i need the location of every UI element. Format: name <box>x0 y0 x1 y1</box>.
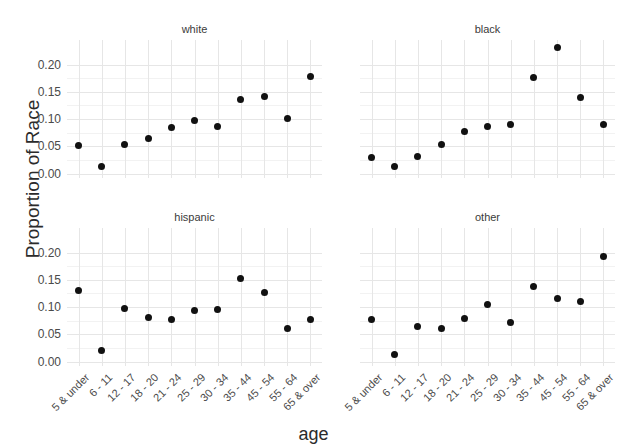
gridline-vertical <box>125 228 126 366</box>
data-point <box>507 121 514 128</box>
gridline-vertical <box>464 228 465 366</box>
panel-title-other: other <box>360 211 615 223</box>
gridline-vertical <box>102 228 103 366</box>
y-tick-label: 0.15 <box>38 273 61 287</box>
gridline-vertical <box>125 40 126 178</box>
gridline-vertical <box>441 40 442 178</box>
gridline-vertical <box>171 228 172 366</box>
panel-black: black <box>360 40 615 178</box>
data-point <box>484 301 491 308</box>
data-point <box>307 73 314 80</box>
data-point <box>600 121 607 128</box>
data-point <box>261 289 268 296</box>
gridline-vertical <box>218 228 219 366</box>
plot-area-black <box>360 40 615 178</box>
data-point <box>75 287 82 294</box>
y-tick-label: 0.05 <box>38 139 61 153</box>
panel-title-black: black <box>360 23 615 35</box>
data-point <box>461 315 468 322</box>
data-point <box>284 115 291 122</box>
y-axis-ticks-bottom: 0.000.050.100.150.20 <box>19 228 61 366</box>
data-point <box>414 323 421 330</box>
gridline-vertical <box>580 40 581 178</box>
y-tick-label: 0.15 <box>38 85 61 99</box>
x-tick-label: 5 & under <box>49 371 91 413</box>
data-point <box>414 153 421 160</box>
data-point <box>98 347 105 354</box>
y-tick-label: 0.10 <box>38 112 61 126</box>
data-point <box>145 135 152 142</box>
y-tick-label: 0.00 <box>38 355 61 369</box>
gridline-vertical <box>310 228 311 366</box>
gridline-vertical <box>441 228 442 366</box>
data-point <box>438 141 445 148</box>
x-tick-label: 5 & under <box>342 371 384 413</box>
gridline-vertical <box>534 228 535 366</box>
gridline-vertical <box>148 228 149 366</box>
data-point <box>214 306 221 313</box>
gridline-vertical <box>287 40 288 178</box>
y-axis-ticks-top: 0.000.050.100.150.20 <box>19 40 61 178</box>
data-point <box>145 314 152 321</box>
data-point <box>214 123 221 130</box>
data-point <box>530 74 537 81</box>
data-point <box>507 319 514 326</box>
gridline-vertical <box>218 40 219 178</box>
gridline-vertical <box>488 228 489 366</box>
data-point <box>554 295 561 302</box>
y-tick-label: 0.20 <box>38 246 61 260</box>
plot-area-white <box>67 40 322 178</box>
data-point <box>98 163 105 170</box>
gridline-vertical <box>603 40 604 178</box>
gridline-vertical <box>148 40 149 178</box>
data-point <box>391 163 398 170</box>
gridline-vertical <box>195 40 196 178</box>
x-axis-title: age <box>0 424 627 445</box>
gridline-vertical <box>418 228 419 366</box>
data-point <box>368 316 375 323</box>
y-tick-label: 0.05 <box>38 327 61 341</box>
data-point <box>237 96 244 103</box>
gridline-vertical <box>511 228 512 366</box>
y-tick-label: 0.20 <box>38 58 61 72</box>
data-point <box>191 307 198 314</box>
panel-title-white: white <box>67 23 322 35</box>
gridline-vertical <box>195 228 196 366</box>
data-point <box>438 325 445 332</box>
gridline-vertical <box>241 228 242 366</box>
gridline-vertical <box>79 228 80 366</box>
data-point <box>121 305 128 312</box>
plot-area-hispanic <box>67 228 322 366</box>
data-point <box>484 123 491 130</box>
gridline-vertical <box>264 40 265 178</box>
gridline-vertical <box>372 228 373 366</box>
data-point <box>261 93 268 100</box>
panel-other: other <box>360 228 615 366</box>
panel-hispanic: hispanic <box>67 228 322 366</box>
gridline-vertical <box>395 40 396 178</box>
gridline-vertical <box>534 40 535 178</box>
gridline-vertical <box>79 40 80 178</box>
data-point <box>577 94 584 101</box>
gridline-vertical <box>171 40 172 178</box>
data-point <box>168 124 175 131</box>
gridline-vertical <box>241 40 242 178</box>
data-point <box>530 283 537 290</box>
gridline-vertical <box>395 228 396 366</box>
data-point <box>554 44 561 51</box>
panel-title-hispanic: hispanic <box>67 211 322 223</box>
gridline-vertical <box>102 40 103 178</box>
gridline-vertical <box>310 40 311 178</box>
data-point <box>191 117 198 124</box>
data-point <box>284 325 291 332</box>
facet-scatter-chart: Proportion of Race age 0.000.050.100.150… <box>0 0 627 446</box>
data-point <box>168 316 175 323</box>
data-point <box>307 316 314 323</box>
data-point <box>600 253 607 260</box>
gridline-vertical <box>557 40 558 178</box>
gridline-vertical <box>464 40 465 178</box>
data-point <box>391 351 398 358</box>
data-point <box>577 298 584 305</box>
gridline-vertical <box>511 40 512 178</box>
gridline-vertical <box>603 228 604 366</box>
